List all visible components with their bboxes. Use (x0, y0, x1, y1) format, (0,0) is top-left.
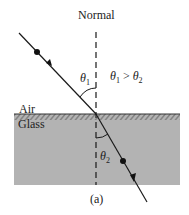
glass-label: Glass (18, 118, 45, 130)
theta1-label: θ1 (80, 72, 90, 87)
theta1-subscript: 1 (86, 78, 90, 87)
air-label: Air (19, 103, 35, 115)
theta2-label: θ2 (100, 150, 110, 165)
relation-op: > (120, 69, 133, 83)
theta2-subscript: 2 (106, 156, 110, 165)
theta1-arc (80, 88, 96, 97)
relation-b-sub: 2 (139, 76, 143, 85)
angle-relation: θ1 > θ2 (110, 70, 143, 85)
caption: (a) (90, 193, 103, 205)
normal-label: Normal (78, 9, 115, 21)
incident-particle (34, 49, 40, 55)
refracted-particle (120, 158, 126, 164)
